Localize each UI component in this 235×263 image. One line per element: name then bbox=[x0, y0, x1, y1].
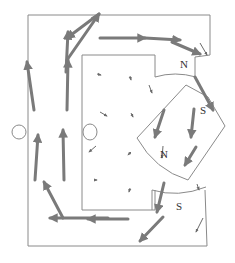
left-hole-icon bbox=[12, 125, 26, 139]
flux-arrow-icon bbox=[89, 146, 96, 152]
flux-vectors-small bbox=[89, 43, 207, 232]
flux-arrow-icon bbox=[145, 38, 180, 40]
inner-hole-icon bbox=[83, 124, 97, 140]
flux-vectors-large bbox=[27, 14, 213, 241]
stator-north-label: N bbox=[180, 58, 188, 70]
north-pole-face-arc bbox=[155, 74, 196, 77]
flux-arrow-icon bbox=[129, 188, 130, 192]
flux-arrow-icon bbox=[67, 14, 99, 60]
rotor-armature bbox=[137, 85, 225, 180]
flux-arrow-icon bbox=[130, 76, 131, 80]
flux-arrow-icon bbox=[157, 183, 164, 212]
flux-arrow-icon bbox=[196, 218, 203, 232]
flux-arrow-icon bbox=[197, 184, 199, 190]
flux-arrow-icon bbox=[63, 130, 64, 180]
flux-arrow-icon bbox=[44, 182, 63, 218]
flux-arrow-icon bbox=[172, 42, 200, 54]
flux-arrow-icon bbox=[35, 135, 38, 180]
stator-south-label: S bbox=[176, 200, 182, 212]
rotor-north-label: N bbox=[160, 148, 168, 160]
flux-arrow-icon bbox=[128, 152, 131, 155]
flux-arrow-icon bbox=[140, 217, 163, 241]
magnetic-field-diagram: N S N S bbox=[0, 0, 235, 263]
flux-arrow-icon bbox=[131, 113, 133, 117]
flux-arrow-icon bbox=[149, 85, 152, 93]
flux-arrow-icon bbox=[191, 109, 194, 137]
flux-arrow-icon bbox=[100, 112, 107, 116]
flux-arrow-icon bbox=[185, 147, 196, 165]
rotor-south-label: S bbox=[200, 104, 206, 116]
flux-arrow-icon bbox=[97, 74, 101, 75]
